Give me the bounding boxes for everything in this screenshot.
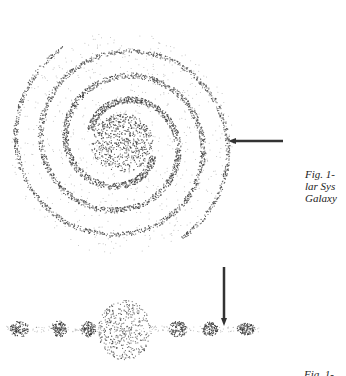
arrow-head-icon: [221, 318, 227, 326]
caption-line: Fig. 1-: [305, 168, 337, 180]
galaxy-edge-on-view: [6, 300, 259, 360]
figure-canvas: Fig. 1- lar Sys Galaxy Fig. 1-: [0, 0, 346, 376]
caption-line: Galaxy: [305, 192, 337, 204]
arrows: [221, 138, 283, 326]
galaxy-illustration: [0, 0, 346, 376]
caption-line: lar Sys: [305, 180, 337, 192]
figure-caption-top: Fig. 1- lar Sys Galaxy: [305, 168, 337, 204]
figure-caption-bottom: Fig. 1-: [304, 368, 334, 376]
caption-line: Fig. 1-: [304, 368, 334, 376]
galaxy-top-view: [12, 34, 235, 254]
